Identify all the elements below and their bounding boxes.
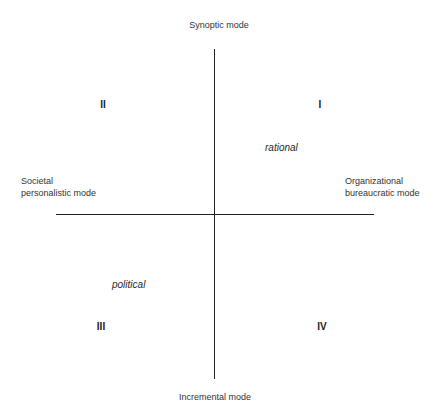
axis-label-right-line2: bureaucratic mode [345, 187, 420, 199]
horizontal-axis [56, 214, 374, 215]
axis-label-top: Synoptic mode [189, 19, 249, 31]
quadrant-label-iii: III [97, 321, 105, 332]
axis-label-left: Societal personalistic mode [21, 175, 96, 199]
quadrant-label-iv: IV [317, 321, 326, 332]
axis-label-left-line2: personalistic mode [21, 187, 96, 199]
quadrant-label-ii: II [100, 99, 106, 110]
quadrant-label-i: I [319, 99, 322, 110]
axis-label-right-line1: Organizational [345, 175, 420, 187]
annotation-political: political [112, 279, 145, 290]
axis-label-left-line1: Societal [21, 175, 96, 187]
annotation-rational: rational [265, 142, 298, 153]
axis-label-bottom: Incremental mode [179, 391, 251, 403]
axis-label-right: Organizational bureaucratic mode [345, 175, 420, 199]
